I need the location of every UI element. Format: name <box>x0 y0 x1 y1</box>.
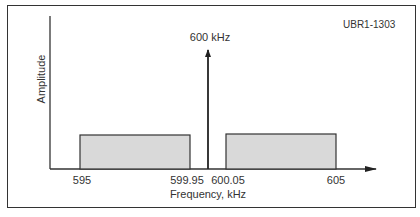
lower-sideband-box <box>80 135 190 169</box>
x-tick-599-95: 599.95 <box>170 174 204 186</box>
x-tick-605: 605 <box>327 174 345 186</box>
carrier-label: 600 kHz <box>190 31 230 43</box>
figure-code-label: UBR1-1303 <box>343 19 395 30</box>
upper-sideband-box <box>226 134 336 169</box>
y-axis-label: Amplitude <box>35 55 47 104</box>
x-tick-600-05: 600.05 <box>211 174 245 186</box>
page-text-cutoff <box>0 210 420 217</box>
x-tick-595: 595 <box>73 174 91 186</box>
x-axis-label: Frequency, kHz <box>170 188 246 200</box>
